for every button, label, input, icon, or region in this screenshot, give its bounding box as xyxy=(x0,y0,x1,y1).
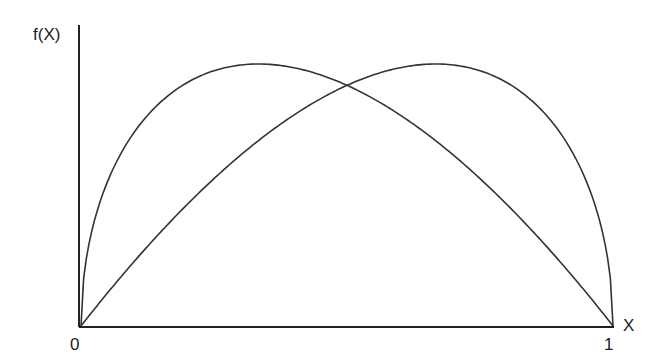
x-axis-label: X xyxy=(623,316,634,336)
left-density-curve xyxy=(81,64,613,326)
density-chart xyxy=(0,0,664,357)
x-tick-0: 0 xyxy=(70,335,79,355)
y-axis-label: f(X) xyxy=(33,25,60,45)
right-density-curve xyxy=(81,64,613,326)
x-tick-1: 1 xyxy=(604,335,613,355)
